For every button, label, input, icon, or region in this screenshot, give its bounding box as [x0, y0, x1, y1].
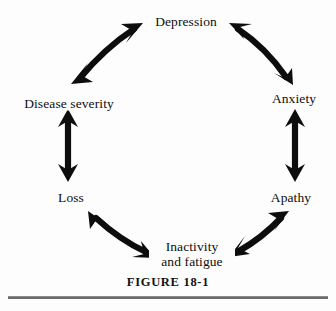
node-anxiety: Anxiety	[271, 91, 317, 106]
node-inactivity-line1: Inactivity	[166, 239, 219, 254]
arrow-loss-disease-severity	[58, 109, 78, 182]
arrow-inactivity-loss	[88, 211, 155, 258]
node-apathy: Apathy	[270, 190, 312, 205]
node-disease-severity: Disease severity	[23, 96, 115, 111]
node-loss: Loss	[57, 190, 85, 205]
arrow-apathy-inactivity	[229, 211, 289, 257]
node-inactivity-and-fatigue: Inactivity and fatigue	[149, 239, 235, 269]
caption-divider-rule	[8, 296, 328, 299]
node-depression: Depression	[154, 14, 218, 29]
arrow-anxiety-apathy	[285, 109, 305, 182]
figure-caption: FIGURE 18-1	[0, 275, 336, 290]
arrow-disease-severity-depression	[71, 23, 143, 84]
arrow-depression-anxiety	[229, 23, 293, 85]
figure-container: Depression Anxiety Apathy Inactivity and…	[0, 0, 336, 311]
node-inactivity-line2: and fatigue	[161, 254, 222, 269]
